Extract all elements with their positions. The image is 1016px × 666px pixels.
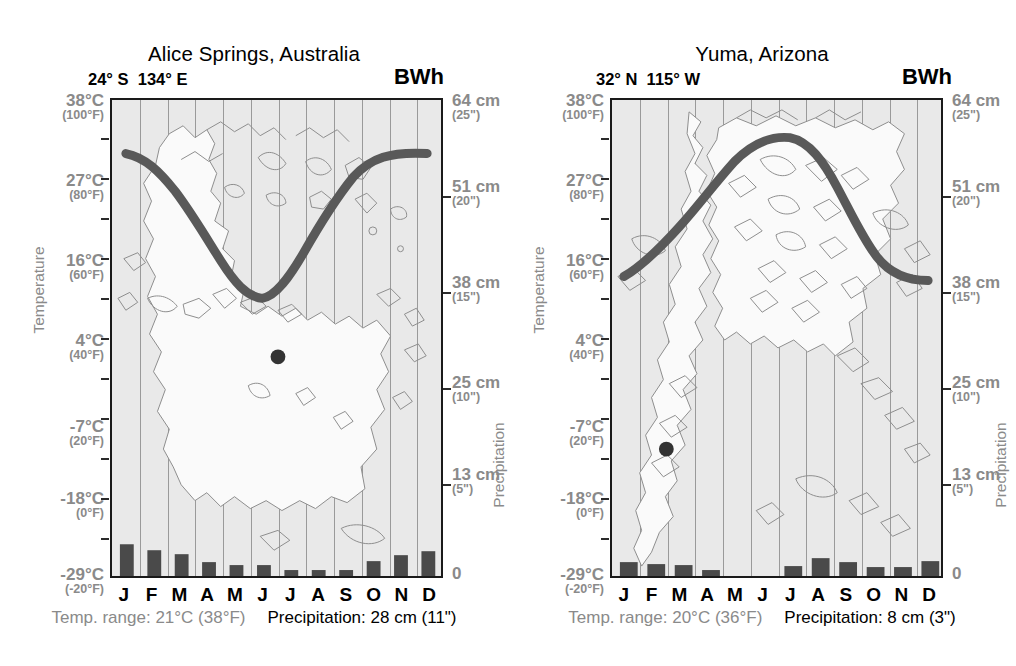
precip-tick-mark [443,484,451,486]
precip-tick-mark [443,196,451,198]
temp-range-summary: Temp. range: 21°C (38°F) [51,608,245,628]
month-label-dec: D [415,584,443,606]
temp-tick-27c: 27°C (80°F) [566,172,604,202]
precip-tick-0: 0 [952,565,961,582]
temp-tick-neg7c: -7°C (20°F) [569,418,604,448]
month-label-sep: S [332,584,360,606]
temperature-curve [112,100,441,576]
month-label-feb: F [638,584,666,606]
temp-tick-neg7c: -7°C (20°F) [69,418,104,448]
coordinates-label: 32° N 115° W [596,70,700,89]
plot-area-yuma [610,98,943,578]
temp-tick-mark [101,418,109,420]
month-label-jun: J [249,584,277,606]
precip-tick-mark [943,388,951,390]
temp-tick-mark [601,458,609,460]
temp-tick-mark [101,498,109,500]
month-label-nov: N [388,584,416,606]
precipitation-summary: Precipitation: 8 cm (3") [784,608,955,628]
temp-tick-4c: 4°C (40°F) [569,332,604,362]
temp-tick-neg18c: -18°C (0°F) [60,490,104,520]
month-label-mar: M [166,584,194,606]
month-label-jan: J [610,584,638,606]
temp-tick-mark [101,378,109,380]
month-label-may: M [721,584,749,606]
precip-tick-mark [943,484,951,486]
temp-tick-mark [101,258,109,260]
temp-tick-mark [601,298,609,300]
y-axis-temperature-label: Temperature [530,246,548,333]
month-label-oct: O [360,584,388,606]
precipitation-summary: Precipitation: 28 cm (11") [268,608,457,628]
y-axis-precipitation-label: Precipitation [490,422,508,507]
temp-tick-mark [101,538,109,540]
temp-tick-38c: 38°C (100°F) [562,92,604,122]
temp-tick-mark [101,338,109,340]
precip-tick-38cm: 38 cm (15") [452,274,500,304]
month-label-oct: O [860,584,888,606]
precip-tick-mark [443,292,451,294]
month-label-feb: F [138,584,166,606]
temp-tick-38c: 38°C (100°F) [62,92,104,122]
temp-tick-mark [601,218,609,220]
coordinates-label: 24° S 134° E [88,70,187,89]
plot-area-alice-springs [110,98,443,578]
month-label-jul: J [277,584,305,606]
y-axis-precipitation-label: Precipitation [992,422,1010,507]
temp-tick-16c: 16°C (60°F) [66,252,104,282]
temp-tick-mark [101,218,109,220]
precip-tick-51cm: 51 cm (20") [952,178,1000,208]
month-label-jun: J [749,584,777,606]
month-axis-labels: J F M A M J J A S O N D [110,584,443,606]
precip-tick-mark [943,292,951,294]
temp-tick-mark [101,458,109,460]
precip-tick-38cm: 38 cm (15") [952,274,1000,304]
month-label-mar: M [666,584,694,606]
temp-tick-mark [601,498,609,500]
precip-tick-25cm: 25 cm (10") [952,374,1000,404]
month-label-may: M [221,584,249,606]
month-label-sep: S [832,584,860,606]
temp-tick-neg29c: -29°C (-20°F) [60,566,104,596]
month-label-dec: D [915,584,943,606]
precip-tick-0: 0 [452,565,461,582]
temp-range-summary: Temp. range: 20°C (36°F) [568,608,762,628]
temp-tick-mark [601,338,609,340]
summary-footer: Temp. range: 20°C (36°F) Precipitation: … [508,608,1016,628]
month-label-jul: J [777,584,805,606]
month-label-aug: A [304,584,332,606]
precip-tick-64cm: 64 cm (25") [452,92,500,122]
climate-graph-figure: Alice Springs, Australia 24° S 134° E BW… [0,0,1016,666]
precip-tick-51cm: 51 cm (20") [452,178,500,208]
temperature-curve [612,100,941,576]
page-title: Yuma, Arizona [508,42,1016,66]
month-label-aug: A [804,584,832,606]
precip-tick-mark [943,196,951,198]
climate-classification-code: BWh [394,64,444,90]
temp-tick-27c: 27°C (80°F) [66,172,104,202]
month-label-apr: A [193,584,221,606]
temp-tick-mark [601,178,609,180]
temp-tick-16c: 16°C (60°F) [566,252,604,282]
temp-tick-mark [601,258,609,260]
precip-tick-25cm: 25 cm (10") [452,374,500,404]
temp-tick-mark [601,378,609,380]
temp-tick-4c: 4°C (40°F) [69,332,104,362]
climate-panel-alice-springs: Alice Springs, Australia 24° S 134° E BW… [0,0,508,666]
temp-tick-mark [101,138,109,140]
month-label-nov: N [888,584,916,606]
temp-tick-mark [601,418,609,420]
page-title: Alice Springs, Australia [0,42,508,66]
month-axis-labels: J F M A M J J A S O N D [610,584,943,606]
climate-panel-yuma: Yuma, Arizona 32° N 115° W BWh 38°C (100… [508,0,1016,666]
temp-tick-neg18c: -18°C (0°F) [560,490,604,520]
month-label-jan: J [110,584,138,606]
temp-tick-neg29c: -29°C (-20°F) [560,566,604,596]
y-axis-temperature-label: Temperature [30,246,48,333]
precip-tick-mark [443,388,451,390]
precip-tick-64cm: 64 cm (25") [952,92,1000,122]
temp-tick-mark [101,298,109,300]
climate-classification-code: BWh [902,64,952,90]
temp-tick-mark [101,178,109,180]
month-label-apr: A [693,584,721,606]
